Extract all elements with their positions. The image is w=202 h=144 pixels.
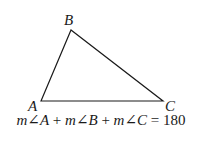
- angle-vertex-a: A: [40, 112, 49, 128]
- angle-vertex-c: C: [137, 112, 147, 128]
- plus-sign: +: [98, 112, 114, 128]
- angle-icon: ∠: [27, 112, 40, 128]
- equals-sign: =: [147, 112, 163, 128]
- angle-icon: ∠: [76, 112, 89, 128]
- vertex-label-b: B: [64, 13, 73, 28]
- measure-symbol: m: [65, 112, 76, 128]
- angle-icon: ∠: [124, 112, 137, 128]
- plus-sign: +: [49, 112, 65, 128]
- sum-value: 180: [163, 112, 186, 128]
- triangle-diagram: B A C m∠A + m∠B + m∠C = 180: [0, 0, 202, 144]
- angle-vertex-b: B: [88, 112, 97, 128]
- measure-symbol: m: [16, 112, 27, 128]
- angle-sum-equation: m∠A + m∠B + m∠C = 180: [0, 113, 202, 128]
- measure-symbol: m: [114, 112, 125, 128]
